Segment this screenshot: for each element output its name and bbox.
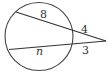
label-bottom-inner: n: [36, 45, 43, 58]
label-top-outer: 4: [81, 23, 88, 36]
circle: [5, 3, 73, 71]
label-bottom-outer: 3: [82, 44, 89, 57]
secant-top: [16, 12, 106, 41]
label-top-inner: 8: [40, 8, 47, 21]
secant-bottom: [9, 41, 106, 50]
secant-diagram: 8 4 n 3: [0, 0, 110, 73]
